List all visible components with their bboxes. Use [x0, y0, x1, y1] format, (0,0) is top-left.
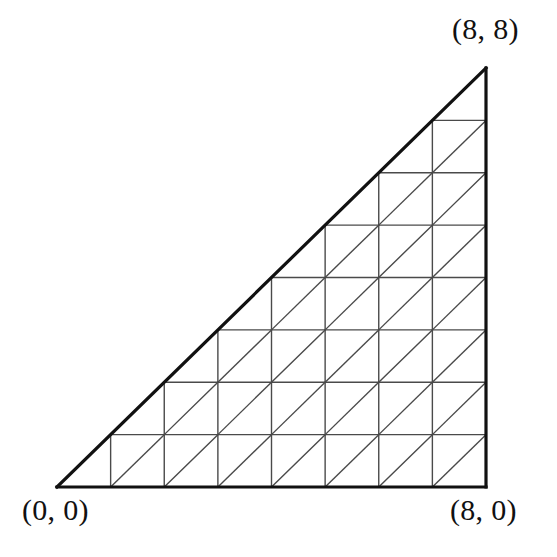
grid-line-diagonal: [432, 173, 486, 225]
grid-line-diagonal: [432, 435, 486, 487]
grid-line-diagonal: [432, 330, 486, 382]
grid-line-diagonal: [218, 435, 272, 487]
vertex-label-bottom-right: (8, 0): [450, 495, 517, 525]
grid-line-diagonal: [379, 435, 433, 487]
grid-line-diagonal: [432, 278, 486, 330]
grid-line-diagonal: [379, 173, 433, 225]
triangle-lattice-diagram: [0, 0, 557, 557]
grid-line-diagonal: [379, 278, 433, 330]
grid-line-diagonal: [164, 382, 218, 434]
grid-line-diagonal: [111, 435, 165, 487]
grid-line-diagonal: [325, 435, 379, 487]
grid-line-diagonal: [164, 435, 218, 487]
grid-line-diagonal: [379, 225, 433, 277]
grid-line-diagonal: [432, 382, 486, 434]
vertex-label-origin: (0, 0): [22, 495, 89, 525]
grid-line-diagonal: [272, 330, 326, 382]
grid-diagonal-lines: [111, 120, 486, 487]
grid-vertical-lines: [111, 120, 433, 487]
grid-line-diagonal: [218, 382, 272, 434]
vertex-label-top-right: (8, 8): [452, 14, 519, 44]
grid-line-diagonal: [432, 225, 486, 277]
grid-line-diagonal: [325, 382, 379, 434]
grid-line-diagonal: [218, 330, 272, 382]
grid-line-diagonal: [379, 330, 433, 382]
grid-line-diagonal: [379, 382, 433, 434]
grid-line-diagonal: [272, 382, 326, 434]
grid-line-diagonal: [325, 278, 379, 330]
grid-line-diagonal: [325, 225, 379, 277]
grid-line-diagonal: [272, 435, 326, 487]
figure-canvas: (8, 8) (0, 0) (8, 0): [0, 0, 557, 557]
grid-horizontal-lines: [111, 120, 486, 434]
grid-line-diagonal: [325, 330, 379, 382]
grid-line-diagonal: [432, 120, 486, 172]
grid-line-diagonal: [272, 278, 326, 330]
